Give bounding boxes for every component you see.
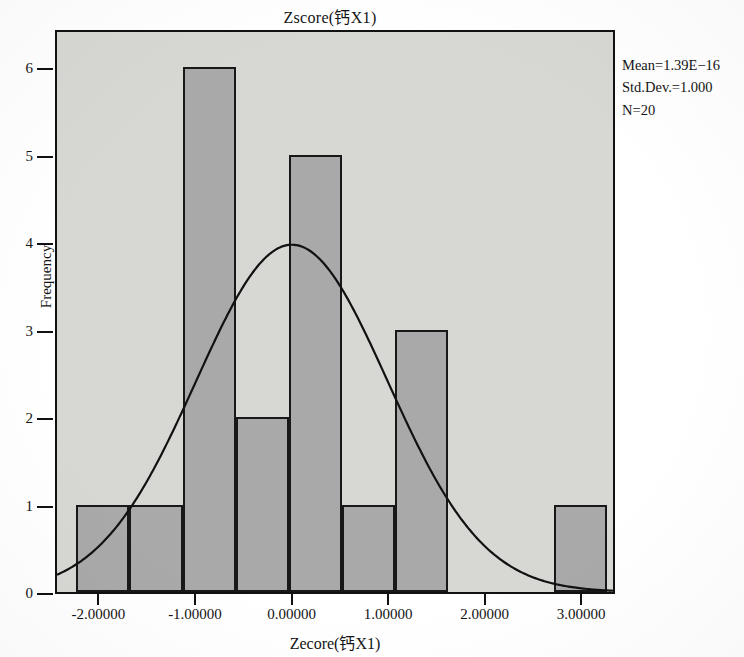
x-axis-tick [580,594,582,605]
y-axis-tick [37,156,53,158]
histogram-bar [554,505,607,592]
x-axis-tick [387,594,389,605]
histogram-bar [236,417,289,592]
histogram-screenshot: Zscore(钙X1) 0123456 Frequency -2.00000-1… [0,0,744,657]
stat-std-dev: Std.Dev.=1.000 [622,76,742,98]
y-axis-tick-label: 5 [0,149,33,164]
x-axis-tick-label: 3.00000 [521,606,641,623]
histogram-bar [289,155,342,592]
histogram-bar [183,67,236,592]
y-axis-label: Frequency [38,207,55,347]
x-axis-label: Zecore(钙X1) [55,630,615,654]
x-axis-tick [484,594,486,605]
y-axis-tick [37,506,53,508]
y-axis-tick [37,593,53,595]
y-axis-tick-label: 6 [0,61,33,76]
y-axis-tick [37,418,53,420]
histogram-bar [129,505,182,592]
y-axis-tick-label: 1 [0,499,33,514]
chart-title: Zscore(钙X1) [0,4,660,28]
y-axis-tick-label: 3 [0,324,33,339]
y-axis-tick [37,68,53,70]
histogram-bar [342,505,395,592]
y-axis-tick-label: 2 [0,411,33,426]
stat-n: N=20 [622,99,742,121]
x-axis-tick [97,594,99,605]
histogram-bar [395,330,448,592]
statistics-legend: Mean=1.39E−16 Std.Dev.=1.000 N=20 [622,54,742,121]
x-axis-tick [291,594,293,605]
plot-inner [57,32,613,592]
x-axis-tick [194,594,196,605]
stat-mean: Mean=1.39E−16 [622,54,742,76]
plot-area [55,30,615,594]
y-axis-tick-label: 4 [0,236,33,251]
y-axis-tick-label: 0 [0,586,33,601]
histogram-bar [76,505,129,592]
